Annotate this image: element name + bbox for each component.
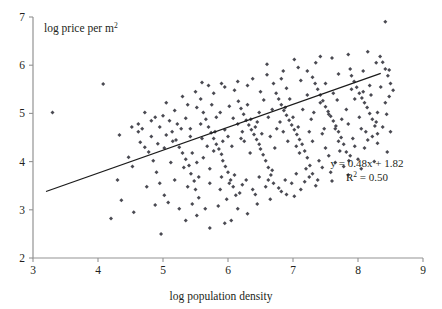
plot-labels: log price per m2 log population density … (0, 0, 442, 309)
y-axis-title: log price per m2 (44, 21, 118, 35)
scatter-plot-figure: 2345673456789 log price per m2 log popul… (0, 0, 442, 309)
regression-equation-label: y = 0.48x + 1.82 (331, 157, 404, 169)
r-squared-label: R2 = 0.50 (346, 170, 389, 183)
x-axis-title: log population density (170, 290, 273, 303)
